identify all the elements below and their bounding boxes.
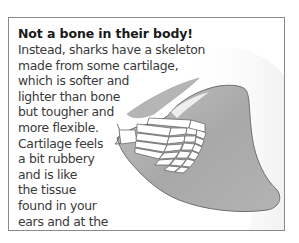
fact-line: which is softer and <box>18 73 278 89</box>
fact-line: more flexible. <box>18 120 278 136</box>
fact-line: lighter than bone <box>18 89 278 105</box>
fact-line: tip of your nose! <box>18 229 278 231</box>
fact-line: a bit rubbery <box>18 151 278 167</box>
fact-text: Not a bone in their body! Instead, shark… <box>18 26 278 231</box>
fact-line: made from some cartilage, <box>18 58 278 74</box>
fact-heading: Not a bone in their body! <box>18 26 278 42</box>
fact-line: found in your <box>18 198 278 214</box>
fact-line: the tissue <box>18 182 278 198</box>
fact-line: Cartilage feels <box>18 136 278 152</box>
info-panel: Not a bone in their body! Instead, shark… <box>8 17 285 231</box>
fact-line: Instead, sharks have a skeleton <box>18 42 278 58</box>
fact-line: ears and at the <box>18 214 278 230</box>
fact-line: but tougher and <box>18 104 278 120</box>
fact-line: and is like <box>18 167 278 183</box>
